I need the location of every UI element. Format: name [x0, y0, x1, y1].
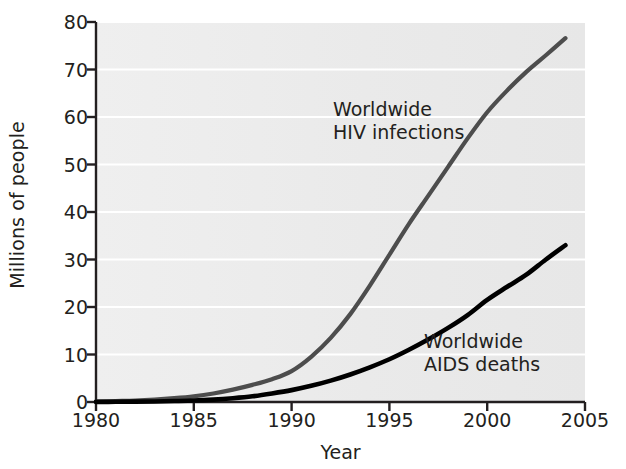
series-annotation-hiv: Worldwide HIV infections — [333, 98, 464, 144]
plot-svg — [0, 0, 626, 469]
series-annotation-aids: Worldwide AIDS deaths — [424, 330, 540, 376]
chart-figure: Millions of people 01020304050607080 198… — [0, 0, 626, 469]
